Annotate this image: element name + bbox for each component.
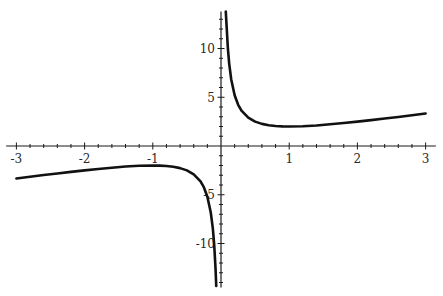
function-plot: -3-2-1123 105-5-10 xyxy=(0,0,443,296)
y-tick-label: -10 xyxy=(196,237,215,251)
x-tick-label: 1 xyxy=(285,152,293,166)
x-tick-label: -3 xyxy=(11,152,23,166)
x-tick-label: -1 xyxy=(147,152,159,166)
x-tick-labels: -3-2-1123 xyxy=(11,152,430,166)
y-tick-label: 10 xyxy=(200,42,215,56)
x-tick-label: 3 xyxy=(422,152,430,166)
x-tick-label: 2 xyxy=(354,152,362,166)
y-tick-label: 5 xyxy=(207,91,215,105)
curve-left-branch xyxy=(16,166,216,287)
x-tick-label: -2 xyxy=(79,152,91,166)
curve-right-branch xyxy=(226,11,426,126)
